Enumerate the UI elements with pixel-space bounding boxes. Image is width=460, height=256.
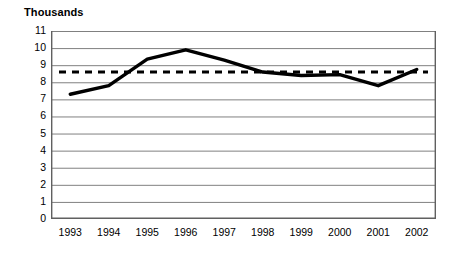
x-tick-label: 1995: [125, 226, 169, 239]
axis-lines: [51, 31, 436, 219]
y-tick-label: 0: [26, 213, 46, 224]
x-tick-label: 1996: [164, 226, 208, 239]
x-tick-label: 1997: [202, 226, 246, 239]
x-tick-label: 2000: [318, 226, 362, 239]
x-tick-label: 1999: [279, 226, 323, 239]
x-tick-label: 2002: [395, 226, 439, 239]
line-chart: Thousands 11109876543210 199319941995199…: [0, 0, 460, 256]
y-tick-label: 5: [26, 128, 46, 139]
plot-area: [51, 31, 436, 219]
x-axis-tick-labels: 1993199419951996199719981999200020012002: [51, 226, 436, 242]
y-axis-tick-labels: 11109876543210: [20, 31, 46, 219]
x-tick-label: 1993: [48, 226, 92, 239]
gridlines: [51, 32, 436, 203]
y-tick-label: 2: [26, 179, 46, 190]
x-tick-label: 2001: [356, 226, 400, 239]
y-tick-label: 3: [26, 162, 46, 173]
chart-title: Thousands: [24, 6, 84, 19]
y-tick-label: 6: [26, 110, 46, 121]
plot-svg: [51, 31, 436, 219]
y-tick-label: 11: [26, 25, 46, 36]
x-tick-label: 1994: [87, 226, 131, 239]
y-tick-label: 1: [26, 196, 46, 207]
y-tick-label: 9: [26, 59, 46, 70]
y-tick-label: 10: [26, 42, 46, 53]
x-tick-label: 1998: [241, 226, 285, 239]
y-tick-label: 7: [26, 93, 46, 104]
y-tick-label: 4: [26, 145, 46, 156]
y-tick-label: 8: [26, 76, 46, 87]
